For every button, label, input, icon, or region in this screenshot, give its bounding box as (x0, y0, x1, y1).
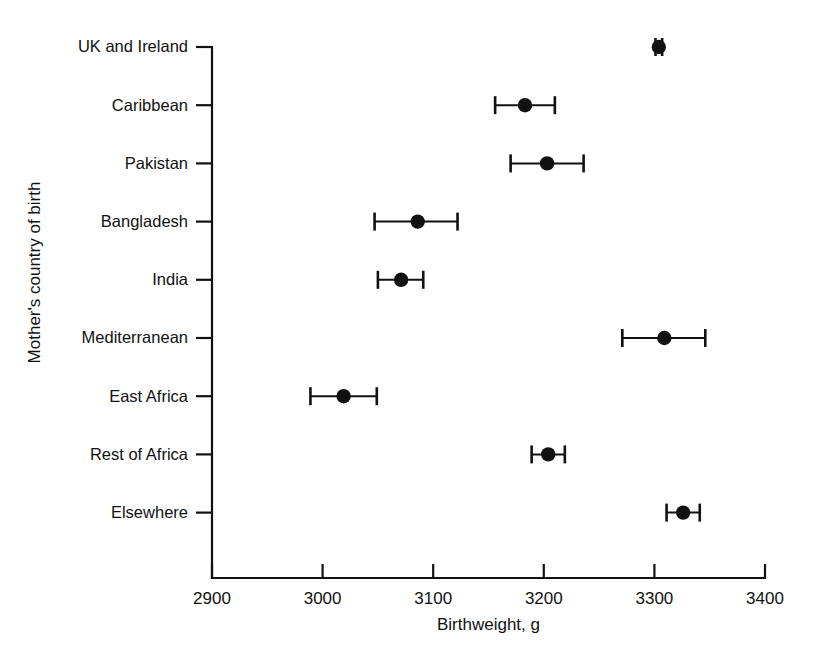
x-axis-tick-label: 3100 (414, 589, 452, 608)
y-axis-category-label: Caribbean (112, 96, 188, 114)
y-axis-category-label: East Africa (109, 387, 189, 405)
axis-ticks (196, 47, 765, 578)
data-point-group[interactable]: India: 3071 g (3050–3091) (378, 271, 423, 289)
data-point-marker[interactable] (336, 389, 350, 403)
data-point-group[interactable]: Rest of Africa: 3204 g (3189–3219) (532, 445, 565, 463)
birthweight-forest-chart: 290030003100320033003400 UK and IrelandC… (0, 0, 828, 666)
y-axis-category-label: India (152, 270, 189, 288)
axes (212, 47, 765, 578)
data-point-group[interactable]: Pakistan: 3203 g (3170–3236) (511, 154, 584, 172)
y-axis-title: Mother's country of birth (25, 182, 44, 364)
y-axis-category-labels: UK and IrelandCaribbeanPakistanBanglades… (78, 37, 189, 521)
axis-titles: Birthweight, gMother's country of birth (25, 182, 540, 634)
x-axis-title: Birthweight, g (437, 615, 540, 634)
x-axis-tick-label: 3300 (635, 589, 673, 608)
x-axis-tick-labels: 290030003100320033003400 (193, 589, 784, 608)
data-point-marker[interactable] (541, 447, 555, 461)
y-axis-category-label: Pakistan (125, 154, 188, 172)
data-point-group[interactable]: Elsewhere: 3326 g (3311–3341) (667, 504, 700, 522)
data-point-marker[interactable] (394, 273, 408, 287)
data-point-marker[interactable] (676, 505, 690, 519)
x-axis-tick-label: 2900 (193, 589, 231, 608)
y-axis-category-label: UK and Ireland (78, 37, 188, 55)
data-point-marker[interactable] (652, 40, 666, 54)
data-point-group[interactable]: Mediterranean: 3309 g (3271–3346) (622, 329, 705, 347)
chart-canvas: 290030003100320033003400 UK and IrelandC… (0, 0, 828, 666)
data-point-group[interactable]: East Africa: 3019 g (2989–3049) (310, 387, 376, 405)
y-axis-category-label: Mediterranean (82, 328, 188, 346)
y-axis-category-label: Elsewhere (111, 503, 188, 521)
x-axis-tick-label: 3200 (525, 589, 563, 608)
data-point-group[interactable]: Bangladesh: 3086 g (3047–3122) (375, 213, 458, 231)
data-series: UK and Ireland: 3304 g (3301–3307)Caribb… (310, 38, 705, 522)
data-point-group[interactable]: Caribbean: 3183 g (3156–3210) (495, 96, 555, 114)
x-axis-tick-label: 3400 (746, 589, 784, 608)
x-axis-tick-label: 3000 (304, 589, 342, 608)
y-axis-category-label: Bangladesh (101, 212, 188, 230)
data-point-marker[interactable] (657, 331, 671, 345)
data-point-marker[interactable] (540, 156, 554, 170)
data-point-marker[interactable] (411, 214, 425, 228)
y-axis-category-label: Rest of Africa (90, 445, 189, 463)
data-point-marker[interactable] (518, 98, 532, 112)
data-point-group[interactable]: UK and Ireland: 3304 g (3301–3307) (652, 38, 666, 56)
